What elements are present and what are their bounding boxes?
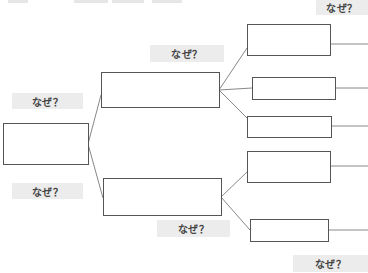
why1-box-upper[interactable] — [101, 72, 220, 108]
why-why-diagram: なぜ？ なぜ？ なぜ？ なぜ？ なぜ？ なぜ？ — [0, 0, 368, 273]
connector-upper-to-r3 — [219, 90, 247, 118]
why-label-mid-bottom: なぜ？ — [157, 220, 230, 237]
why2-box-4[interactable] — [247, 151, 331, 183]
why-label-top-right: なぜ？ — [316, 0, 368, 15]
why1-box-lower[interactable] — [103, 178, 222, 216]
why2-box-1[interactable] — [247, 24, 331, 56]
why2-box-5[interactable] — [250, 219, 329, 242]
root-problem-box[interactable] — [3, 123, 89, 165]
why2-box-3[interactable] — [247, 116, 332, 138]
why2-box-2[interactable] — [252, 77, 336, 100]
why-label-bottom-right: なぜ？ — [293, 255, 368, 272]
why-label-left-bottom: なぜ？ — [12, 183, 83, 199]
why-label-mid-top: なぜ？ — [150, 45, 224, 62]
connector-lower-to-r4 — [221, 172, 247, 197]
why-label-left-top: なぜ？ — [12, 93, 83, 109]
connector-root-to-upper — [88, 95, 101, 144]
connector-root-to-lower — [88, 144, 103, 198]
connector-upper-to-r2 — [219, 88, 252, 90]
